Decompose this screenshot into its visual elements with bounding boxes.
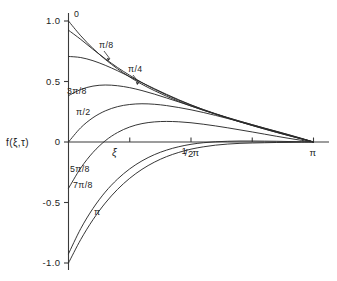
curve-label-leader bbox=[104, 51, 110, 59]
data-curve bbox=[69, 56, 314, 142]
curve-labels-group: 0π/8π/43π/8π/25π/87π/8π bbox=[67, 9, 143, 217]
y-tick-label: 0 bbox=[55, 136, 61, 147]
x-tick-label-pi: π bbox=[310, 147, 317, 158]
y-tick-label: 0.5 bbox=[46, 76, 60, 87]
curve-label: 5π/8 bbox=[70, 164, 90, 174]
x-axis-label: ξ bbox=[112, 146, 118, 159]
curve-label: π bbox=[94, 207, 100, 217]
data-curve bbox=[69, 142, 314, 263]
y-tick-label: -0.5 bbox=[43, 197, 61, 208]
figure-root: 1.00.50-0.5-1.01/2ππ 0π/8π/43π/8π/25π/87… bbox=[0, 0, 337, 281]
y-tick-label: -1.0 bbox=[43, 257, 61, 268]
curve-label: π/4 bbox=[128, 64, 143, 74]
curve-label: 3π/8 bbox=[67, 86, 87, 96]
x-tick-label-half-pi: 1/2π bbox=[182, 145, 200, 160]
half-pi-symbol: π bbox=[192, 147, 199, 158]
y-axis-label: f(ξ,τ) bbox=[6, 137, 29, 149]
curve-label: 0 bbox=[74, 9, 79, 19]
plot-area: 1.00.50-0.5-1.01/2ππ 0π/8π/43π/8π/25π/87… bbox=[0, 0, 337, 281]
curve-label: 7π/8 bbox=[73, 180, 93, 190]
curve-label: π/8 bbox=[99, 40, 114, 50]
data-curve bbox=[69, 85, 314, 142]
axis-labels-group: f(ξ,τ)ξ bbox=[6, 137, 118, 159]
y-tick-label: 1.0 bbox=[46, 15, 60, 26]
curve-label: π/2 bbox=[76, 107, 91, 117]
